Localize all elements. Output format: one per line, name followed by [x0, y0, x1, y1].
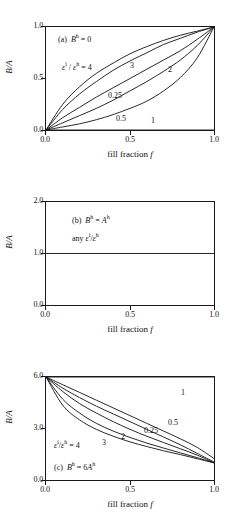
panel-a-ratio-label: εi / εh = 4 — [62, 63, 92, 72]
panel-b-xtick-2: 0.5 — [115, 311, 145, 319]
panel-c-curve-label-1: 1 — [181, 389, 185, 397]
panel-b-ytick-1: 2.0 — [17, 197, 43, 205]
panel-b-condition-label: (b) Bh = Ah — [72, 216, 110, 225]
panel-b-ytick-2: 1.0 — [17, 249, 43, 257]
panel-a-xtick-3: 1.0 — [199, 136, 229, 144]
panel-b-y-axis-title: B/A — [4, 220, 14, 264]
panel-a-curve-label-3: 3 — [130, 62, 134, 70]
panel-b-y-axis: 2.0 1.0 0.0 — [12, 201, 43, 306]
panel-a: 1.0 0.5 0.0 B/A (a) Bh = 0 εi / εh = 4 3… — [0, 0, 247, 176]
panel-c-ytick-2: 3.0 — [17, 424, 43, 432]
panel-c-xtick-3: 1.0 — [199, 486, 229, 494]
panel-c-ratio-label: εi/εh = 4 — [54, 441, 80, 450]
panel-b: 2.0 1.0 0.0 B/A (b) Bh = Ah any εi/εh 0.… — [0, 175, 247, 351]
panel-a-y-axis: 1.0 0.5 0.0 — [12, 26, 43, 131]
panel-c-curve-label-3: 3 — [102, 439, 106, 447]
panel-c-y-axis: 6.0 3.0 0.0 — [12, 376, 43, 481]
panel-c-curve-label-05: 0.5 — [168, 419, 178, 427]
panel-c-xtick-2: 0.5 — [115, 486, 145, 494]
panel-c-ytick-1: 6.0 — [17, 372, 43, 380]
panel-a-curve-label-2: 2 — [168, 66, 172, 74]
panel-a-ytick-2: 0.5 — [17, 74, 43, 82]
panel-a-curve-label-1: 1 — [151, 117, 155, 125]
panel-b-plot-area: (b) Bh = Ah any εi/εh — [45, 201, 215, 306]
panel-a-xtick-2: 0.5 — [115, 136, 145, 144]
panel-c: 6.0 3.0 0.0 B/A 1 0.5 0.25 2 3 εi/εh = 4… — [0, 350, 247, 526]
panel-a-ytick-3: 0.0 — [17, 126, 43, 134]
panel-c-y-axis-title: B/A — [4, 395, 14, 439]
panel-c-x-axis: 0.0 0.5 1.0 — [45, 481, 215, 497]
panel-a-curve-label-025: 0.25 — [108, 92, 122, 100]
panel-b-x-axis-title: fill fraction f — [45, 324, 215, 334]
panel-a-xtick-1: 0.0 — [30, 136, 60, 144]
panel-a-y-axis-title: B/A — [4, 45, 14, 89]
panel-c-plot-area: 1 0.5 0.25 2 3 εi/εh = 4 (c) Bh = 6Ah — [45, 376, 215, 481]
panel-a-plot-area: (a) Bh = 0 εi / εh = 4 3 2 0.25 0.5 1 — [45, 26, 215, 131]
panel-a-x-axis: 0.0 0.5 1.0 — [45, 131, 215, 147]
panel-c-condition-label: (c) Bh = 6Ah — [54, 463, 95, 472]
panel-b-note-label: any εi/εh — [72, 234, 99, 243]
panel-a-x-axis-title: fill fraction f — [45, 149, 215, 159]
panel-b-ytick-3: 0.0 — [17, 301, 43, 309]
panel-c-curve-label-2: 2 — [121, 433, 125, 441]
panel-c-x-axis-title: fill fraction f — [45, 499, 215, 509]
panel-b-x-axis: 0.0 0.5 1.0 — [45, 306, 215, 322]
panel-a-curve-label-05: 0.5 — [116, 115, 126, 123]
panel-a-condition-label: (a) Bh = 0 — [58, 35, 91, 44]
panel-c-curve-label-025: 0.25 — [144, 427, 158, 435]
panel-b-xtick-1: 0.0 — [30, 311, 60, 319]
figure-three-panel-plot: 1.0 0.5 0.0 B/A (a) Bh = 0 εi / εh = 4 3… — [0, 0, 247, 527]
panel-a-ytick-1: 1.0 — [17, 22, 43, 30]
panel-c-xtick-1: 0.0 — [30, 486, 60, 494]
panel-c-ytick-3: 0.0 — [17, 476, 43, 484]
panel-b-xtick-3: 1.0 — [199, 311, 229, 319]
